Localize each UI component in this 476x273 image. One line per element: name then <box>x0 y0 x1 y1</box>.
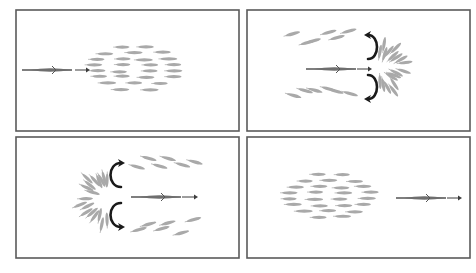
fountain-effect-diagram <box>0 0 476 273</box>
panel-2 <box>247 10 470 131</box>
panel-3 <box>16 137 239 258</box>
panel-frame <box>16 137 239 258</box>
panel-1 <box>16 10 239 131</box>
panel-frame <box>247 10 470 131</box>
panel-4 <box>247 137 470 258</box>
